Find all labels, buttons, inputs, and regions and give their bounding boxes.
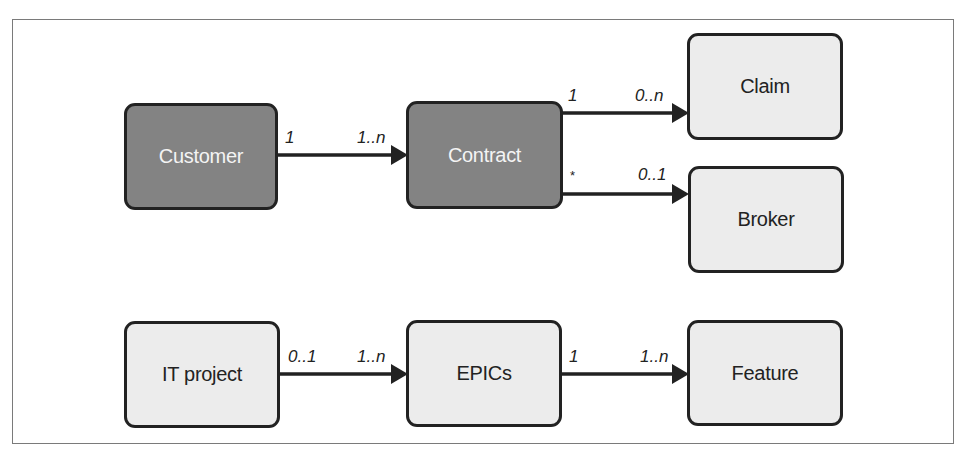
- node-label: Broker: [737, 208, 794, 231]
- node-feature: Feature: [687, 320, 843, 426]
- node-claim: Claim: [687, 33, 843, 140]
- multiplicity-label: *: [570, 168, 575, 183]
- node-broker: Broker: [688, 166, 844, 273]
- node-contract: Contract: [406, 101, 563, 209]
- node-it-project: IT project: [124, 321, 280, 428]
- node-label: Customer: [159, 145, 243, 168]
- multiplicity-label: 1..n: [357, 347, 385, 367]
- node-label: Claim: [740, 75, 790, 98]
- node-label: Contract: [448, 144, 521, 167]
- multiplicity-label: 1: [568, 86, 577, 106]
- arrowhead-icon: [672, 184, 689, 204]
- node-epics: EPICs: [406, 320, 562, 427]
- multiplicity-label: 1..n: [357, 128, 385, 148]
- multiplicity-label: 0..1: [638, 165, 666, 185]
- node-label: Feature: [732, 362, 799, 385]
- multiplicity-label: 0..1: [288, 347, 316, 367]
- node-label: IT project: [162, 363, 242, 386]
- multiplicity-label: 1..n: [640, 347, 668, 367]
- node-label: EPICs: [456, 362, 511, 385]
- node-customer: Customer: [124, 103, 278, 210]
- multiplicity-label: 1: [285, 128, 294, 148]
- multiplicity-label: 0..n: [635, 86, 663, 106]
- multiplicity-label: 1: [569, 347, 578, 367]
